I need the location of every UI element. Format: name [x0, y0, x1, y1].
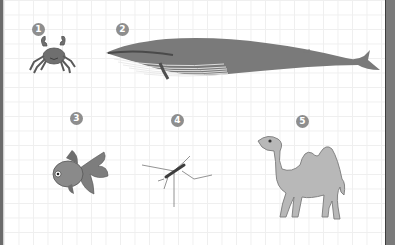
number-badge-3: 3: [70, 112, 83, 125]
number-badge-4: 4: [171, 114, 184, 127]
crab-icon: [26, 36, 86, 76]
camel-icon: [254, 133, 354, 233]
mosquito-icon: [138, 145, 218, 207]
number-badge-1: 1: [32, 23, 45, 36]
grid-canvas: 1 2 3 4: [4, 0, 385, 245]
whale-icon: [102, 34, 386, 84]
right-border: [386, 0, 395, 245]
goldfish-icon: [44, 146, 110, 198]
number-badge-5: 5: [296, 115, 309, 128]
